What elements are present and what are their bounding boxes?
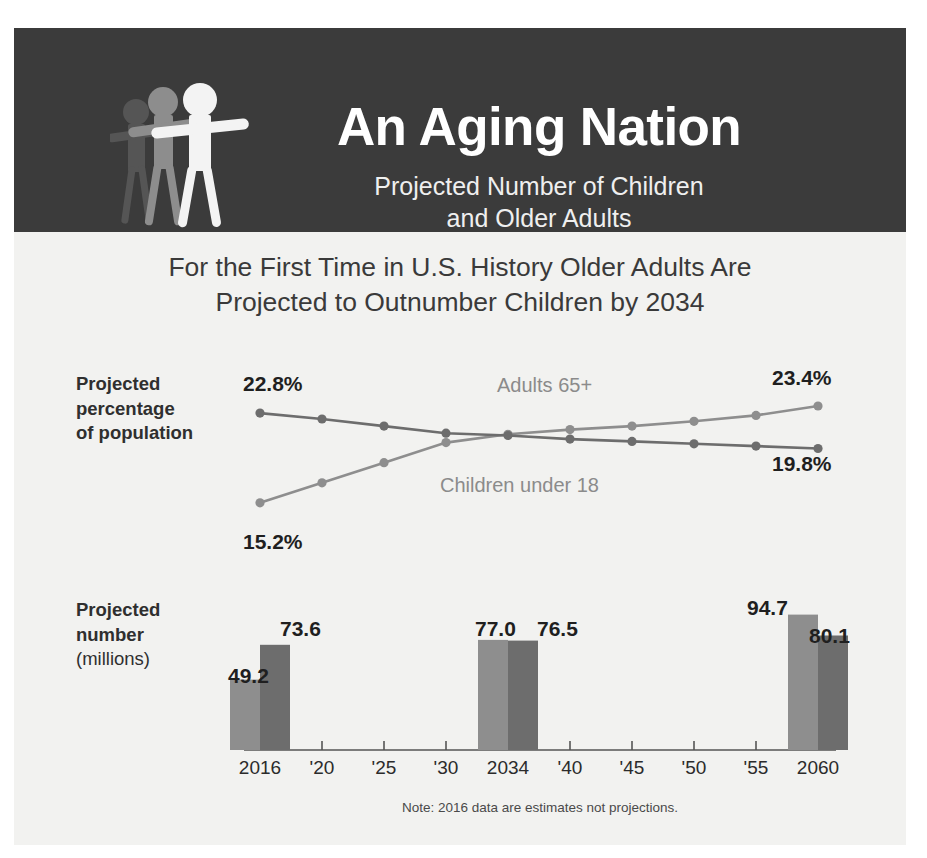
data-point bbox=[503, 431, 512, 440]
series-label-children: Children under 18 bbox=[440, 474, 599, 497]
data-point bbox=[751, 411, 760, 420]
bar-value-2016-children: 73.6 bbox=[280, 617, 321, 641]
infographic-page: An Aging Nation Projected Number of Chil… bbox=[0, 0, 927, 858]
axis-label-45: '45 bbox=[620, 757, 645, 779]
bar-2034-adults-65- bbox=[478, 640, 508, 750]
axis-label-2016: 2016 bbox=[239, 757, 281, 779]
bar-value-2034-adults: 77.0 bbox=[475, 617, 516, 641]
bar-value-2060-adults: 94.7 bbox=[747, 596, 788, 620]
axis-label-2060: 2060 bbox=[797, 757, 839, 779]
data-point bbox=[565, 435, 574, 444]
percentage-section-label: Projected percentage of population bbox=[76, 372, 256, 446]
number-section-label: Projected number (millions) bbox=[76, 598, 256, 672]
percentage-label-line2: percentage bbox=[76, 397, 256, 422]
main-heading: For the First Time in U.S. History Older… bbox=[60, 250, 860, 320]
main-heading-line1: For the First Time in U.S. History Older… bbox=[60, 250, 860, 285]
three-people-figures-icon bbox=[110, 78, 290, 228]
page-subtitle-line1: Projected Number of Children bbox=[269, 170, 809, 202]
data-point bbox=[627, 437, 636, 446]
percentage-label-line3: of population bbox=[76, 421, 256, 446]
data-point bbox=[441, 429, 450, 438]
adults-end-value: 23.4% bbox=[772, 366, 832, 390]
bar-value-2060-children: 80.1 bbox=[809, 624, 850, 648]
chart-note: Note: 2016 data are estimates not projec… bbox=[230, 800, 850, 815]
bar-value-2034-children: 76.5 bbox=[537, 617, 578, 641]
axis-label-50: '50 bbox=[682, 757, 707, 779]
axis-label-40: '40 bbox=[558, 757, 583, 779]
axis-label-30: '30 bbox=[434, 757, 459, 779]
bar-2016-children-under-18 bbox=[260, 645, 290, 750]
data-point bbox=[379, 458, 388, 467]
series-label-adults: Adults 65+ bbox=[497, 374, 592, 397]
data-point bbox=[379, 422, 388, 431]
header-banner: An Aging Nation Projected Number of Chil… bbox=[14, 28, 906, 232]
percentage-label-line1: Projected bbox=[76, 372, 256, 397]
axis-label-25: '25 bbox=[372, 757, 397, 779]
bar-2060-children-under-18 bbox=[818, 636, 848, 751]
data-point bbox=[317, 478, 326, 487]
data-point bbox=[441, 438, 450, 447]
data-point bbox=[627, 422, 636, 431]
main-heading-line2: Projected to Outnumber Children by 2034 bbox=[60, 285, 860, 320]
axis-label-55: '55 bbox=[744, 757, 769, 779]
bar-2034-children-under-18 bbox=[508, 641, 538, 750]
data-point bbox=[317, 414, 326, 423]
page-title: An Aging Nation bbox=[269, 100, 809, 153]
children-start-value: 22.8% bbox=[243, 372, 303, 396]
data-point bbox=[565, 425, 574, 434]
data-point bbox=[255, 409, 264, 418]
axis-label-2034: 2034 bbox=[487, 757, 529, 779]
data-point bbox=[255, 498, 264, 507]
data-point bbox=[751, 442, 760, 451]
data-point bbox=[689, 439, 698, 448]
number-label-line1: Projected bbox=[76, 598, 256, 623]
axis-label-20: '20 bbox=[310, 757, 335, 779]
data-point bbox=[813, 401, 822, 410]
x-axis-labels: 2016'20'25'302034'40'45'50'552060 bbox=[230, 757, 850, 783]
bar-2016-adults-65- bbox=[230, 680, 260, 750]
number-label-line2: number bbox=[76, 623, 256, 648]
data-point bbox=[689, 417, 698, 426]
page-subtitle-line2: and Older Adults bbox=[269, 202, 809, 232]
page-subtitle: Projected Number of Children and Older A… bbox=[269, 170, 809, 232]
adults-start-value: 15.2% bbox=[243, 530, 303, 554]
children-end-value: 19.8% bbox=[772, 452, 832, 476]
bar-value-2016-adults: 49.2 bbox=[228, 664, 269, 688]
